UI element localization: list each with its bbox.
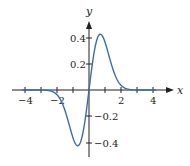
x-tick-label-neg4: −4 [18, 95, 33, 106]
function-plot: −4 −2 2 4 0.4 0.2 −0.2 −0.4 x y [0, 0, 190, 166]
y-axis-arrow-icon [86, 21, 92, 29]
y-tick-label-neg0.4: −0.4 [94, 138, 118, 149]
x-tick-label-2: 2 [118, 95, 124, 106]
y-tick-label-0.4: 0.4 [70, 33, 86, 44]
y-tick-label-neg0.2: −0.2 [94, 111, 118, 122]
x-axis-arrow-icon [166, 87, 174, 93]
x-axis-label: x [177, 84, 184, 97]
y-axis-label: y [85, 5, 93, 18]
y-tick-label-0.2: 0.2 [70, 59, 86, 70]
x-tick-label-4: 4 [150, 95, 156, 106]
